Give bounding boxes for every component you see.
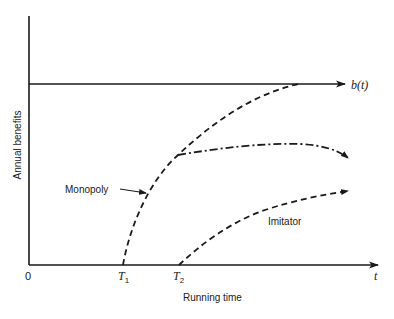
origin-label: 0 (25, 271, 31, 282)
b-t-label: b(t) (351, 79, 368, 91)
t1-base: T (118, 269, 125, 283)
imitator-curve (179, 191, 348, 265)
t2-subscript: 2 (180, 276, 184, 285)
innovator-after-imitation-curve (178, 144, 348, 158)
monopoly-label: Monopoly (65, 185, 108, 195)
t2-base: T (173, 269, 180, 283)
t1-subscript: 1 (125, 276, 129, 285)
t-axis-label: t (374, 270, 377, 282)
benefits-diagram (0, 0, 394, 319)
monopoly-pointer-arrow (120, 189, 146, 193)
imitator-label: Imitator (268, 217, 301, 227)
t1-tick-label: T1 (118, 270, 129, 285)
x-axis-title: Running time (183, 293, 242, 303)
t2-tick-label: T2 (173, 270, 184, 285)
y-axis-title: Annual benefits (12, 111, 23, 180)
